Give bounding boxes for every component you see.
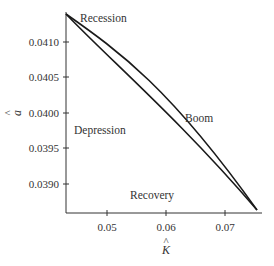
cycle-lower-branch — [66, 14, 257, 210]
phase-diagram-chart: 0.0410 0.0405 0.0400 0.0395 0.0390 0.05 … — [0, 0, 274, 266]
y-tick-label-0395: 0.0395 — [29, 142, 60, 154]
y-tick-label-0405: 0.0405 — [29, 71, 60, 83]
y-tick-label-0410: 0.0410 — [29, 36, 60, 48]
x-axis-label: ^ K — [161, 235, 171, 257]
x-tick-label-006: 0.06 — [156, 221, 176, 233]
region-label-recovery: Recovery — [130, 189, 174, 202]
region-label-boom: Boom — [185, 112, 213, 124]
y-axis-label: ^ a — [2, 110, 24, 116]
y-tick-label-0390: 0.0390 — [29, 178, 60, 190]
region-label-recession: Recession — [80, 12, 127, 24]
x-tick-label-005: 0.05 — [97, 221, 117, 233]
y-axis-var: a — [10, 110, 24, 116]
region-label-depression: Depression — [74, 124, 126, 137]
x-tick-label-007: 0.07 — [215, 221, 235, 233]
x-axis-var: K — [161, 243, 171, 257]
y-tick-label-0400: 0.0400 — [29, 107, 60, 119]
